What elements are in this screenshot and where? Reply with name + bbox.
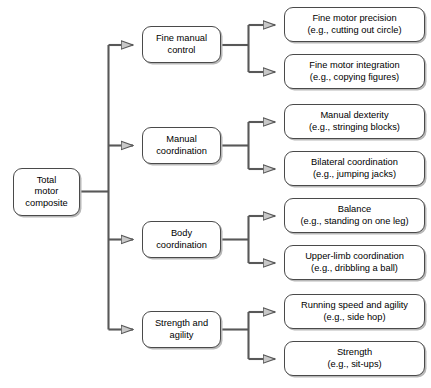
node-total-motor-composite[interactable]: Total motor composite bbox=[13, 168, 80, 216]
node-fine-manual-control[interactable]: Fine manual control bbox=[142, 26, 221, 63]
node-label: Strength (e.g., sit-ups) bbox=[324, 347, 384, 370]
motor-composite-diagram: Total motor composite Fine manual contro… bbox=[0, 0, 431, 388]
node-strength-and-agility[interactable]: Strength and agility bbox=[142, 311, 221, 348]
node-label: Fine motor precision (e.g., cutting out … bbox=[304, 13, 404, 36]
node-label: Fine manual control bbox=[153, 33, 210, 56]
node-fine-motor-precision[interactable]: Fine motor precision (e.g., cutting out … bbox=[284, 7, 425, 42]
node-strength[interactable]: Strength (e.g., sit-ups) bbox=[284, 341, 425, 376]
node-label: Fine motor integration (e.g., copying fi… bbox=[306, 60, 402, 83]
node-label: Manual dexterity (e.g., stringing blocks… bbox=[306, 110, 403, 133]
node-balance[interactable]: Balance (e.g., standing on one leg) bbox=[284, 198, 425, 233]
node-label: Running speed and agility (e.g., side ho… bbox=[298, 300, 411, 323]
node-label: Total motor composite bbox=[22, 175, 70, 210]
node-label: Body coordination bbox=[153, 228, 210, 251]
node-label: Upper-limb coordination (e.g., dribbling… bbox=[302, 251, 407, 274]
node-label: Manual coordination bbox=[153, 134, 210, 157]
node-label: Strength and agility bbox=[152, 318, 211, 341]
node-manual-coordination[interactable]: Manual coordination bbox=[142, 127, 221, 164]
node-label: Balance (e.g., standing on one leg) bbox=[297, 204, 411, 227]
node-bilateral-coordination[interactable]: Bilateral coordination (e.g., jumping ja… bbox=[284, 151, 425, 186]
node-manual-dexterity[interactable]: Manual dexterity (e.g., stringing blocks… bbox=[284, 104, 425, 139]
node-label: Bilateral coordination (e.g., jumping ja… bbox=[308, 157, 401, 180]
node-body-coordination[interactable]: Body coordination bbox=[142, 221, 221, 258]
node-fine-motor-integration[interactable]: Fine motor integration (e.g., copying fi… bbox=[284, 54, 425, 89]
node-upper-limb-coordination[interactable]: Upper-limb coordination (e.g., dribbling… bbox=[284, 245, 425, 280]
node-running-speed-and-agility[interactable]: Running speed and agility (e.g., side ho… bbox=[284, 294, 425, 329]
